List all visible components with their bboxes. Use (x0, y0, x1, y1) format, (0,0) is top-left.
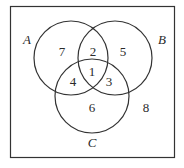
region-c-only: 6 (89, 100, 96, 115)
region-b-only: 5 (120, 44, 127, 59)
set-b-label: B (158, 32, 166, 47)
venn-diagram: A B C 7 2 5 4 1 3 6 8 (0, 0, 184, 168)
region-outside: 8 (143, 100, 150, 115)
region-a-and-c: 4 (70, 74, 77, 89)
set-c-label: C (88, 135, 97, 150)
region-a-only: 7 (59, 44, 66, 59)
region-b-and-c: 3 (106, 74, 113, 89)
region-a-and-b: 2 (90, 44, 97, 59)
region-a-b-c: 1 (89, 64, 96, 79)
set-a-label: A (22, 32, 31, 47)
